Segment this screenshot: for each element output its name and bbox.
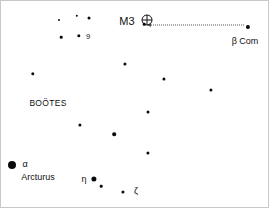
star-upper-small-1 xyxy=(58,19,60,21)
star-chart-boootes: BOÖTES M3 β Com α Arcturus η ζ 9 xyxy=(0,0,269,208)
star-9-boo xyxy=(77,34,80,37)
star-label-beta-com: β Com xyxy=(232,37,259,46)
star-right-1 xyxy=(209,88,212,91)
star-label-arcturus: Arcturus xyxy=(21,173,55,182)
star-mid-2 xyxy=(162,77,165,80)
star-mid-6 xyxy=(146,151,149,154)
m3-pointer-line xyxy=(151,25,244,26)
star-below-eta xyxy=(100,185,103,188)
star-mid-3 xyxy=(147,111,150,114)
star-upper-small-4 xyxy=(60,36,63,39)
star-label-alpha: α xyxy=(22,160,27,169)
star-m3-marker xyxy=(143,23,146,26)
star-upper-small-3 xyxy=(88,17,91,20)
star-label-eta: η xyxy=(81,175,86,184)
star-upper-small-2 xyxy=(76,15,78,17)
star-eta-boo xyxy=(91,176,96,181)
star-label-zeta: ζ xyxy=(134,187,138,196)
star-mid-4 xyxy=(78,123,81,126)
object-label-m3: M3 xyxy=(119,16,134,27)
star-beta-com xyxy=(246,25,250,29)
star-arcturus xyxy=(8,161,16,169)
constellation-label-bootes: BOÖTES xyxy=(29,99,66,108)
star-mid-1 xyxy=(123,62,126,65)
star-left-1 xyxy=(31,72,34,75)
star-label-9-boo: 9 xyxy=(86,33,90,41)
star-mid-5 xyxy=(112,132,116,136)
star-zeta-boo xyxy=(121,190,124,193)
